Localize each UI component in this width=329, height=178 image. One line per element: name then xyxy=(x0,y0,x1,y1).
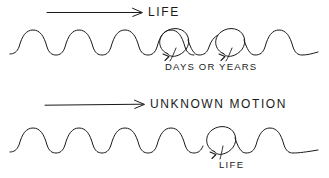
bottom-wave-segment-left xyxy=(10,128,203,153)
bottom-wave-segment-right xyxy=(235,128,318,153)
top-loop-1-leader xyxy=(170,48,176,61)
top-wave-segment-left xyxy=(10,30,194,55)
label-life-bottom: LIFE xyxy=(219,160,244,170)
wave-diagram-svg xyxy=(0,0,329,178)
figure-canvas: LIFE DAYS OR YEARS UNKNOWN MOTION LIFE xyxy=(0,0,329,178)
label-life-top: LIFE xyxy=(148,6,180,18)
bottom-loop-1 xyxy=(207,127,236,155)
label-unknown-motion: UNKNOWN MOTION xyxy=(150,98,287,110)
top-arrow-life xyxy=(47,8,143,16)
label-days-or-years: DAYS OR YEARS xyxy=(165,62,257,72)
bottom-loop-leader xyxy=(220,146,223,159)
top-wave-connector xyxy=(188,35,218,55)
bottom-arrow-unknown-motion xyxy=(45,100,145,108)
top-loop-2-leader xyxy=(226,48,232,61)
bottom-arrow-shaft xyxy=(45,104,143,105)
top-wave-segment-right xyxy=(244,30,318,55)
